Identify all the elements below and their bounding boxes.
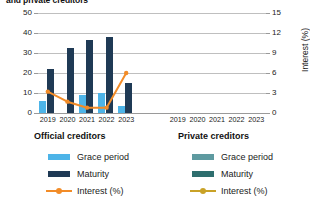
x-axis-baseline	[38, 113, 266, 114]
interest-marker-official-2019	[46, 89, 50, 93]
interest-line-official	[48, 73, 126, 108]
y-axis-left-tick-label: 0	[12, 109, 32, 117]
legend-item-label: Maturity	[221, 169, 253, 179]
interest-marker-official-2022	[104, 105, 108, 109]
y-axis-left-tick-label: 30	[12, 49, 32, 57]
chart-title: and private creditors	[6, 0, 88, 5]
legend-box-swatch-icon	[190, 168, 216, 179]
legend-item[interactable]: Grace period	[46, 148, 164, 165]
legend-box-swatch-icon	[190, 151, 216, 162]
legend-official-creditors: Official creditors Grace periodMaturityI…	[24, 131, 164, 199]
legend-item-label: Grace period	[77, 152, 129, 162]
y-axis-right-tick	[266, 53, 270, 54]
legend-item[interactable]: Maturity	[46, 165, 164, 182]
legend-box-swatch-icon	[46, 151, 72, 162]
legend-item-label: Interest (%)	[77, 186, 124, 196]
legend-items-official: Grace periodMaturityInterest (%)	[24, 148, 164, 199]
y-axis-right-tick	[266, 93, 270, 94]
y-axis-right-tick	[266, 33, 270, 34]
y-axis-left-tick-label: 10	[12, 89, 32, 97]
legend-item-label: Interest (%)	[221, 186, 268, 196]
legend-line-swatch-icon	[190, 185, 216, 196]
y-axis-right-tick	[266, 13, 270, 14]
legend-items-private: Grace periodMaturityInterest (%)	[168, 148, 308, 199]
legend-item[interactable]: Maturity	[190, 165, 308, 182]
interest-marker-official-2021	[85, 105, 89, 109]
y-axis-left-tick-label: 50	[12, 9, 32, 17]
interest-line-overlay	[38, 13, 266, 113]
y-axis-left-tick-label: 20	[12, 69, 32, 77]
chart-figure: and private creditors Years Interest (%)…	[0, 0, 310, 202]
y-axis-right-tick-label: 6	[272, 69, 290, 77]
y-axis-right-tick	[266, 73, 270, 74]
legend-box-swatch-icon	[46, 168, 72, 179]
x-axis-tick-label: 2023	[115, 115, 137, 124]
legend-title-official: Official creditors	[34, 131, 164, 141]
x-axis-tick-label: 2023	[245, 115, 267, 124]
x-axis-ticks-private: 20192020202120222023	[168, 115, 266, 125]
legend-title-private: Private creditors	[178, 131, 308, 141]
y-axis-right-tick	[266, 113, 270, 114]
legend-item[interactable]: Interest (%)	[46, 182, 164, 199]
legend-line-swatch-icon	[46, 185, 72, 196]
legend-private-creditors: Private creditors Grace periodMaturityIn…	[168, 131, 308, 199]
y-axis-right-tick-label: 12	[272, 29, 290, 37]
y-axis-left-tick-label: 40	[12, 29, 32, 37]
y-axis-right-tick-label: 3	[272, 89, 290, 97]
y-axis-right-tick-label: 9	[272, 49, 290, 57]
y-axis-right-tick-label: 0	[272, 109, 290, 117]
y-axis-right-label: Interest (%)	[300, 28, 310, 72]
legend-item[interactable]: Grace period	[190, 148, 308, 165]
interest-marker-official-2020	[65, 99, 69, 103]
legend-item-label: Grace period	[221, 152, 273, 162]
interest-marker-official-2023	[124, 71, 128, 75]
y-axis-right-tick-label: 15	[272, 9, 290, 17]
plot-area	[38, 13, 266, 113]
legend-item[interactable]: Interest (%)	[190, 182, 308, 199]
x-axis-ticks-official: 20192020202120222023	[38, 115, 136, 125]
legend-item-label: Maturity	[77, 169, 109, 179]
